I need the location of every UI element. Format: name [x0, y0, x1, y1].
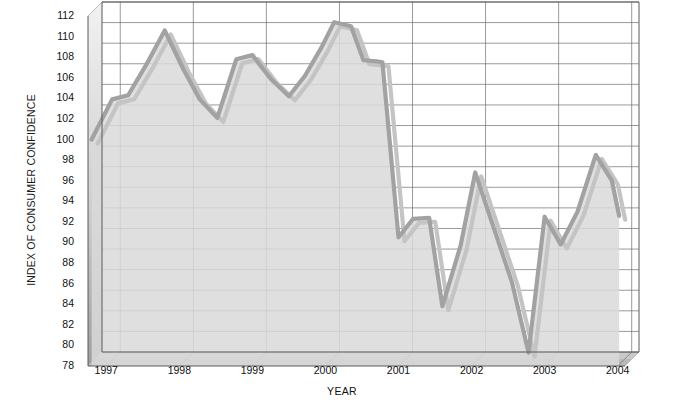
x-axis-tick-labels: 19971998199920002001200220032004: [0, 364, 684, 386]
chart-svg: [0, 0, 684, 400]
x-tick-label: 2002: [460, 364, 483, 376]
x-tick-label: 2003: [533, 364, 556, 376]
x-tick-label: 2000: [314, 364, 337, 376]
x-tick-label: 1997: [95, 364, 118, 376]
plot-area: [0, 0, 684, 400]
x-axis-title: YEAR: [0, 385, 684, 397]
x-tick-label: 1999: [241, 364, 264, 376]
x-tick-label: 1998: [168, 364, 191, 376]
x-tick-label: 2004: [606, 364, 629, 376]
x-tick-label: 2001: [387, 364, 410, 376]
chart-figure: INDEX OF CONSUMER CONFIDENCE 11211010810…: [0, 0, 684, 413]
